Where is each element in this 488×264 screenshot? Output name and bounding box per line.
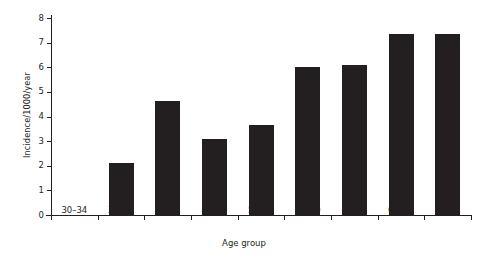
- x-tick: [191, 215, 192, 220]
- y-axis-line: [51, 15, 52, 218]
- bar: [249, 125, 274, 215]
- y-tick: 1: [47, 190, 51, 191]
- y-tick-label: 6: [39, 62, 44, 72]
- y-tick: 4: [47, 117, 51, 118]
- x-tick-label: 30–34: [61, 205, 87, 216]
- bar: [342, 65, 367, 215]
- bar: [155, 101, 180, 216]
- y-tick-label: 2: [39, 160, 44, 170]
- x-tick: [471, 215, 472, 220]
- x-tick: [144, 215, 145, 220]
- y-tick-label: 4: [39, 111, 44, 121]
- x-tick-label: 50–54: [248, 205, 274, 216]
- y-tick: 6: [47, 67, 51, 68]
- x-tick: [378, 215, 379, 220]
- y-tick-label: 7: [39, 37, 44, 47]
- y-tick-label: 1: [39, 185, 44, 195]
- y-tick: 8: [47, 18, 51, 19]
- y-tick-label: 3: [39, 136, 44, 146]
- y-tick: 2: [47, 166, 51, 167]
- plot-area: 012345678: [51, 18, 471, 215]
- bar: [202, 139, 227, 215]
- y-tick: 7: [47, 43, 51, 44]
- y-tick: 3: [47, 141, 51, 142]
- x-tick-label: 40–44: [155, 205, 181, 216]
- x-tick: [284, 215, 285, 220]
- x-tick-label: 70–74: [435, 205, 461, 216]
- x-tick: [51, 215, 52, 220]
- x-tick: [424, 215, 425, 220]
- x-tick: [238, 215, 239, 220]
- x-axis-title: Age group: [0, 238, 488, 248]
- y-axis-title: Incidence/1000/year: [18, 0, 36, 230]
- x-tick-label: 45–49: [201, 205, 227, 216]
- x-tick: [331, 215, 332, 220]
- y-tick-label: 8: [39, 13, 44, 23]
- bar-chart: Incidence/1000/year 012345678 30–3435–39…: [0, 0, 488, 264]
- y-tick: 5: [47, 92, 51, 93]
- x-tick-label: 65–69: [388, 205, 414, 216]
- x-axis-title-text: Age group: [222, 238, 266, 248]
- x-tick-label: 55–59: [295, 205, 321, 216]
- y-axis-title-text: Incidence/1000/year: [22, 72, 32, 158]
- bar: [389, 34, 414, 215]
- x-tick-label: 35–39: [108, 205, 134, 216]
- y-tick-label: 5: [39, 86, 44, 96]
- y-tick-label: 0: [39, 210, 44, 220]
- bar: [435, 34, 460, 215]
- x-tick: [98, 215, 99, 220]
- x-tick-label: 60–64: [341, 205, 367, 216]
- bar: [295, 67, 320, 215]
